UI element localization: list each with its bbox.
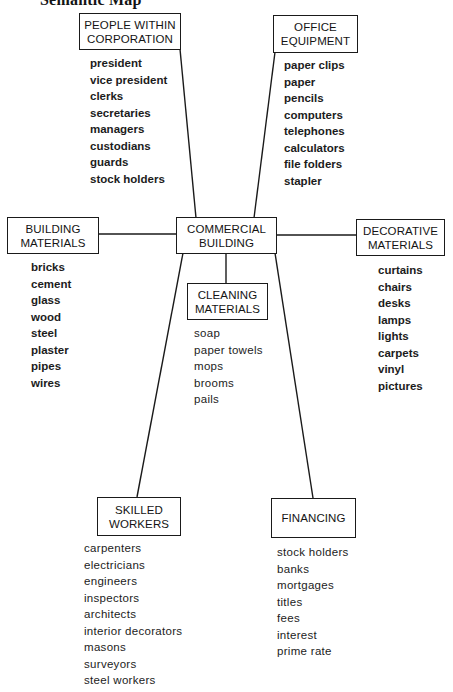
decorative-materials-list: curtains chairs desks lamps lights carpe…: [378, 262, 423, 394]
list-item: clerks: [90, 88, 167, 105]
list-item: inspectors: [84, 590, 182, 607]
list-item: wires: [31, 375, 71, 392]
list-item: pencils: [284, 90, 345, 107]
list-item: calculators: [284, 140, 345, 157]
list-item: electricians: [84, 557, 182, 574]
list-item: chairs: [378, 279, 423, 296]
skilled-workers-node: SKILLED WORKERS: [97, 497, 181, 536]
list-item: pictures: [378, 378, 423, 395]
list-item: lights: [378, 328, 423, 345]
list-item: curtains: [378, 262, 423, 279]
list-item: architects: [84, 606, 182, 623]
list-item: managers: [90, 121, 167, 138]
list-item: telephones: [284, 123, 345, 140]
list-item: stapler: [284, 173, 345, 190]
list-item: desks: [378, 295, 423, 312]
list-item: fees: [277, 610, 349, 627]
financing-node: FINANCING: [271, 498, 356, 538]
decorative-materials-node: DECORATIVE MATERIALS: [356, 219, 445, 256]
list-item: brooms: [194, 375, 263, 392]
list-item: interior decorators: [84, 623, 182, 640]
office-list: paper clips paper pencils computers tele…: [284, 57, 345, 189]
financing-list: stock holders banks mortgages titles fee…: [277, 544, 349, 660]
list-item: engineers: [84, 573, 182, 590]
connector-people: [180, 49, 196, 218]
financing-node-label: FINANCING: [281, 511, 345, 525]
list-item: carpenters: [84, 540, 182, 557]
list-item: prime rate: [277, 643, 349, 660]
list-item: paper: [284, 74, 345, 91]
list-item: file folders: [284, 156, 345, 173]
building-materials-list: bricks cement glass wood steel plaster p…: [31, 259, 71, 391]
building-materials-node-label: BUILDING MATERIALS: [20, 222, 85, 250]
list-item: president: [90, 55, 167, 72]
list-item: carpets: [378, 345, 423, 362]
list-item: vice president: [90, 72, 167, 89]
cleaning-materials-node-label: CLEANING MATERIALS: [195, 288, 260, 316]
office-node: OFFICE EQUIPMENT: [273, 15, 358, 53]
list-item: plaster: [31, 342, 71, 359]
building-materials-node: BUILDING MATERIALS: [7, 217, 99, 254]
list-item: masons: [84, 639, 182, 656]
list-item: guards: [90, 154, 167, 171]
list-item: computers: [284, 107, 345, 124]
list-item: bricks: [31, 259, 71, 276]
skilled-workers-list: carpenters electricians engineers inspec…: [84, 540, 182, 689]
connector-office: [254, 52, 275, 218]
skilled-workers-node-label: SKILLED WORKERS: [109, 503, 169, 531]
list-item: surveyors: [84, 656, 182, 673]
connector-financing: [275, 253, 313, 498]
list-item: wood: [31, 309, 71, 326]
cleaning-materials-list: soap paper towels mops brooms pails: [194, 325, 263, 408]
list-item: vinyl: [378, 361, 423, 378]
list-item: steel workers: [84, 672, 182, 689]
list-item: pipes: [31, 358, 71, 375]
list-item: lamps: [378, 312, 423, 329]
list-item: stock holders: [277, 544, 349, 561]
list-item: soap: [194, 325, 263, 342]
connector-skilled: [137, 253, 183, 497]
list-item: interest: [277, 627, 349, 644]
list-item: paper towels: [194, 342, 263, 359]
decorative-materials-node-label: DECORATIVE MATERIALS: [363, 224, 438, 252]
list-item: steel: [31, 325, 71, 342]
list-item: paper clips: [284, 57, 345, 74]
people-list: president vice president clerks secretar…: [90, 55, 167, 187]
people-node-label: PEOPLE WITHIN CORPORATION: [84, 18, 175, 46]
office-node-label: OFFICE EQUIPMENT: [281, 20, 350, 48]
list-item: pails: [194, 391, 263, 408]
list-item: banks: [277, 561, 349, 578]
center-node: COMMERCIAL BUILDING: [176, 217, 277, 254]
cleaning-materials-node: CLEANING MATERIALS: [187, 283, 268, 320]
list-item: stock holders: [90, 171, 167, 188]
list-item: secretaries: [90, 105, 167, 122]
list-item: titles: [277, 594, 349, 611]
list-item: cement: [31, 276, 71, 293]
center-node-label: COMMERCIAL BUILDING: [187, 222, 266, 250]
list-item: mortgages: [277, 577, 349, 594]
title-text: Semantic Map: [40, 0, 142, 8]
page-title: Semantic Map: [0, 0, 142, 9]
list-item: glass: [31, 292, 71, 309]
list-item: custodians: [90, 138, 167, 155]
list-item: mops: [194, 358, 263, 375]
people-node: PEOPLE WITHIN CORPORATION: [79, 13, 181, 50]
